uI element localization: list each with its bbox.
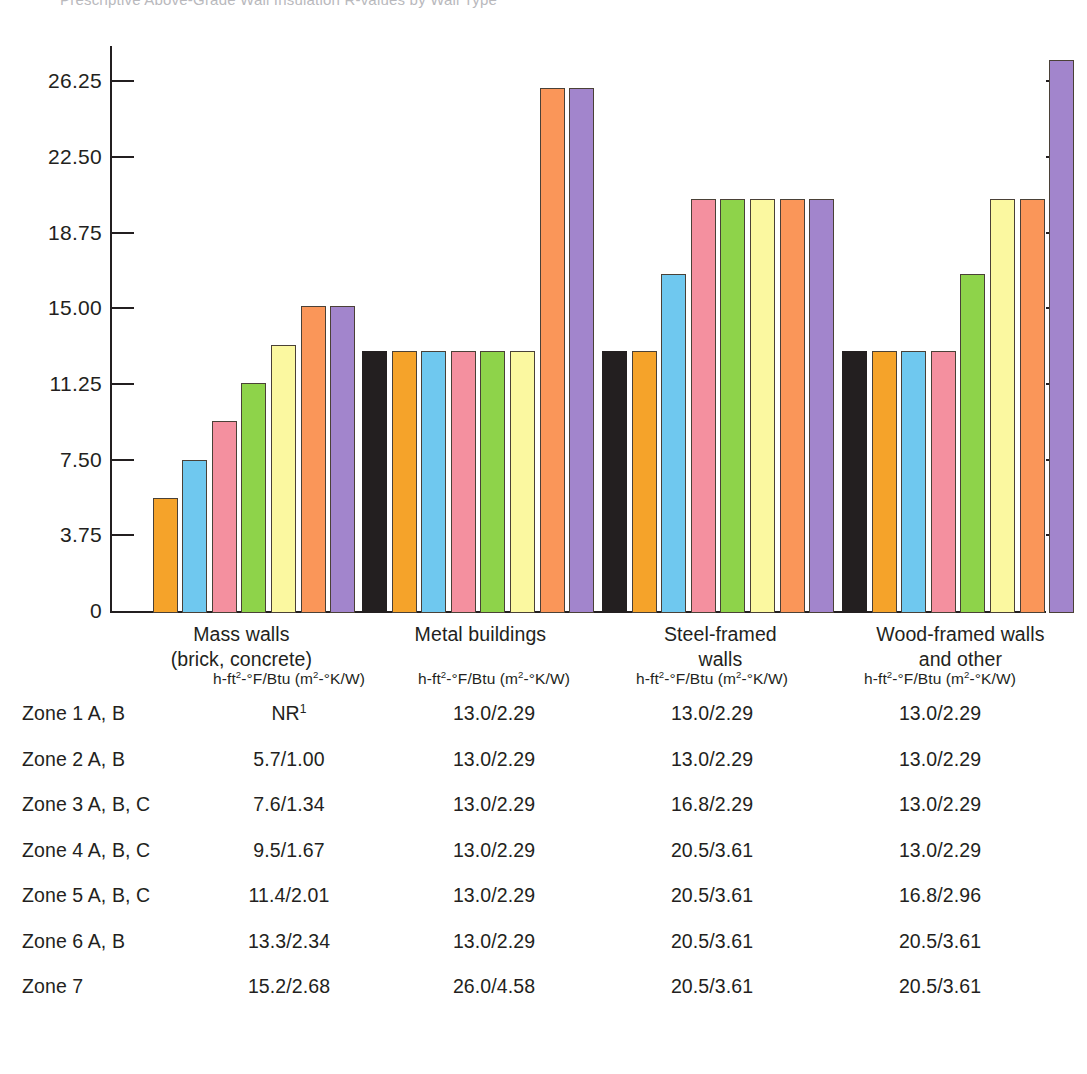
table-cell-value: 26.0/4.58 — [388, 975, 600, 998]
table-cell-value: 13.0/2.29 — [824, 702, 1056, 725]
table-cell-value: 13.0/2.29 — [388, 748, 600, 771]
table-units-header: h-ft2-°F/Btu (m2-°K/W) — [190, 670, 388, 688]
table-cell-value: 13.0/2.29 — [824, 839, 1056, 862]
table-cell-value: 20.5/3.61 — [824, 975, 1056, 998]
table-cell-value: 13.0/2.29 — [388, 930, 600, 953]
table-cell-zone: Zone 7 — [22, 975, 83, 998]
table-row: Zone 5 A, B, C11.4/2.0113.0/2.2920.5/3.6… — [0, 884, 1087, 930]
table-cell-value: 16.8/2.29 — [600, 793, 824, 816]
table-cell-value: 13.0/2.29 — [600, 748, 824, 771]
table-cell-value: 15.2/2.68 — [190, 975, 388, 998]
bar — [842, 351, 867, 613]
table-cell-zone: Zone 5 A, B, C — [22, 884, 150, 907]
table-cell-value: 13.0/2.29 — [388, 839, 600, 862]
bar — [960, 274, 985, 613]
bar — [392, 351, 417, 613]
table-row: Zone 1 A, BNR113.0/2.2913.0/2.2913.0/2.2… — [0, 702, 1087, 748]
bar — [901, 351, 926, 613]
table-row: Zone 715.2/2.6826.0/4.5820.5/3.6120.5/3.… — [0, 975, 1087, 1021]
bar — [330, 306, 355, 613]
table-row: Zone 4 A, B, C9.5/1.6713.0/2.2920.5/3.61… — [0, 839, 1087, 885]
bar — [1020, 199, 1045, 613]
table-cell-zone: Zone 4 A, B, C — [22, 839, 150, 862]
table-row: Zone 6 A, B13.3/2.3413.0/2.2920.5/3.6120… — [0, 930, 1087, 976]
table-cell-value: 20.5/3.61 — [824, 930, 1056, 953]
table-cell-value: 13.0/2.29 — [824, 748, 1056, 771]
table-units-header: h-ft2-°F/Btu (m2-°K/W) — [600, 670, 824, 688]
table-cell-value: 20.5/3.61 — [600, 839, 824, 862]
table-cell-zone: Zone 2 A, B — [22, 748, 125, 771]
bar — [569, 88, 594, 613]
bar — [362, 351, 387, 613]
table-row: Zone 3 A, B, C7.6/1.3413.0/2.2916.8/2.29… — [0, 793, 1087, 839]
bar — [451, 351, 476, 613]
data-table: h-ft2-°F/Btu (m2-°K/W)h-ft2-°F/Btu (m2-°… — [0, 666, 1087, 1021]
bar — [872, 351, 897, 613]
bar — [301, 306, 326, 613]
bar — [632, 351, 657, 613]
bar — [421, 351, 446, 613]
table-units-header: h-ft2-°F/Btu (m2-°K/W) — [824, 670, 1056, 688]
bar — [990, 199, 1015, 613]
table-cell-zone: Zone 3 A, B, C — [22, 793, 150, 816]
bar — [540, 88, 565, 613]
table-cell-zone: Zone 1 A, B — [22, 702, 125, 725]
table-cell-value: 5.7/1.00 — [190, 748, 388, 771]
table-cell-value: 13.3/2.34 — [190, 930, 388, 953]
bar — [212, 421, 237, 613]
footnote-marker: 1 — [300, 702, 307, 716]
table-cell-value: 13.0/2.29 — [388, 884, 600, 907]
bar — [182, 460, 207, 613]
bar — [780, 199, 805, 613]
x-axis-group-label: Wood-framed walls and other — [807, 622, 1087, 672]
bar-chart: 03.757.5011.2515.0018.7522.5026.25 Mass … — [0, 0, 1087, 630]
bar — [750, 199, 775, 613]
bar — [271, 345, 296, 613]
table-cell-value: 20.5/3.61 — [600, 930, 824, 953]
bar — [809, 199, 834, 613]
bar — [153, 498, 178, 613]
bar — [931, 351, 956, 613]
table-units-header-row: h-ft2-°F/Btu (m2-°K/W)h-ft2-°F/Btu (m2-°… — [0, 666, 1087, 702]
bar-series-container — [0, 0, 1087, 613]
table-cell-zone: Zone 6 A, B — [22, 930, 125, 953]
bar — [510, 351, 535, 613]
table-cell-value: 9.5/1.67 — [190, 839, 388, 862]
table-cell-value: 13.0/2.29 — [824, 793, 1056, 816]
bar — [691, 199, 716, 613]
table-cell-value: 13.0/2.29 — [600, 702, 824, 725]
bar — [1049, 60, 1074, 613]
table-cell-value: 13.0/2.29 — [388, 793, 600, 816]
bar — [661, 274, 686, 613]
table-units-header: h-ft2-°F/Btu (m2-°K/W) — [388, 670, 600, 688]
table-row: Zone 2 A, B5.7/1.0013.0/2.2913.0/2.2913.… — [0, 748, 1087, 794]
bar — [480, 351, 505, 613]
table-cell-value: 11.4/2.01 — [190, 884, 388, 907]
bar — [720, 199, 745, 613]
bar — [602, 351, 627, 613]
bar — [241, 383, 266, 613]
table-cell-value: 20.5/3.61 — [600, 884, 824, 907]
table-cell-value: 16.8/2.96 — [824, 884, 1056, 907]
table-cell-value: 7.6/1.34 — [190, 793, 388, 816]
table-cell-value: 20.5/3.61 — [600, 975, 824, 998]
table-cell-value: 13.0/2.29 — [388, 702, 600, 725]
table-cell-value: NR1 — [190, 702, 388, 725]
